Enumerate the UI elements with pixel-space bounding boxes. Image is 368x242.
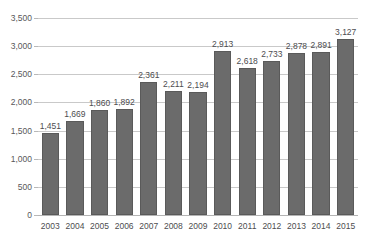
x-axis-tick-label: 2009 — [189, 221, 208, 231]
bar-value-label: 1,451 — [40, 122, 61, 131]
bar-value-label: 2,211 — [163, 80, 184, 89]
bar — [239, 68, 256, 215]
clipped-title-fragment — [4, 0, 304, 2]
bar — [140, 82, 157, 215]
x-axis-tick-label: 2007 — [139, 221, 158, 231]
bar — [42, 133, 59, 215]
x-axis-tick-label: 2005 — [90, 221, 109, 231]
x-axis-tick-label: 2015 — [336, 221, 355, 231]
bar — [337, 39, 354, 215]
x-axis-tick-label: 2004 — [65, 221, 84, 231]
bar — [165, 91, 182, 215]
bar-value-label: 2,878 — [286, 42, 307, 51]
y-axis-tick-label: 3,000 — [11, 42, 32, 51]
y-axis-tick-label: 0 — [27, 211, 32, 220]
bar-value-label: 2,361 — [138, 71, 159, 80]
bar — [288, 53, 305, 215]
y-axis-tick-label: 1,500 — [11, 126, 32, 135]
bar — [91, 110, 108, 215]
x-axis-tick-label: 2008 — [164, 221, 183, 231]
y-axis-tick-mark — [34, 46, 38, 47]
bar-chart: 05001,0001,5002,0002,5003,0003,500 1,451… — [0, 0, 368, 242]
bar — [66, 121, 83, 215]
bar-value-label: 2,913 — [212, 40, 233, 49]
y-axis-tick-mark — [34, 18, 38, 19]
x-axis-tick-label: 2010 — [213, 221, 232, 231]
gridline — [38, 18, 358, 19]
x-axis-tick-label: 2013 — [287, 221, 306, 231]
x-axis-tick-label: 2006 — [115, 221, 134, 231]
x-axis-tick-label: 2003 — [41, 221, 60, 231]
y-axis-tick-mark — [34, 215, 38, 216]
y-axis-tick-mark — [34, 187, 38, 188]
gridline — [38, 215, 358, 216]
plot-area: 05001,0001,5002,0002,5003,0003,500 1,451… — [38, 18, 358, 215]
bar-value-label: 2,618 — [237, 57, 258, 66]
bar — [263, 61, 280, 215]
bar — [116, 109, 133, 215]
bar — [312, 52, 329, 215]
bar-value-label: 1,669 — [64, 110, 85, 119]
y-axis-tick-label: 1,000 — [11, 154, 32, 163]
y-axis-tick-label: 500 — [18, 182, 32, 191]
y-axis-tick-label: 3,500 — [11, 14, 32, 23]
bar-value-label: 1,892 — [114, 98, 135, 107]
y-axis-tick-mark — [34, 102, 38, 103]
x-axis-tick-label: 2011 — [238, 221, 256, 231]
y-axis-tick-mark — [34, 131, 38, 132]
bar-value-label: 2,733 — [261, 50, 282, 59]
bar-value-label: 2,891 — [310, 41, 331, 50]
x-axis-tick-label: 2014 — [312, 221, 331, 231]
bar — [214, 51, 231, 215]
y-axis-tick-mark — [34, 159, 38, 160]
bar-value-label: 2,194 — [187, 81, 208, 90]
bar-value-label: 1,860 — [89, 99, 110, 108]
x-axis-tick-label: 2012 — [262, 221, 281, 231]
y-axis-tick-label: 2,000 — [11, 98, 32, 107]
bar-value-label: 3,127 — [335, 28, 356, 37]
gridline — [38, 74, 358, 75]
y-axis-tick-label: 2,500 — [11, 70, 32, 79]
y-axis-tick-mark — [34, 74, 38, 75]
bar — [189, 92, 206, 215]
